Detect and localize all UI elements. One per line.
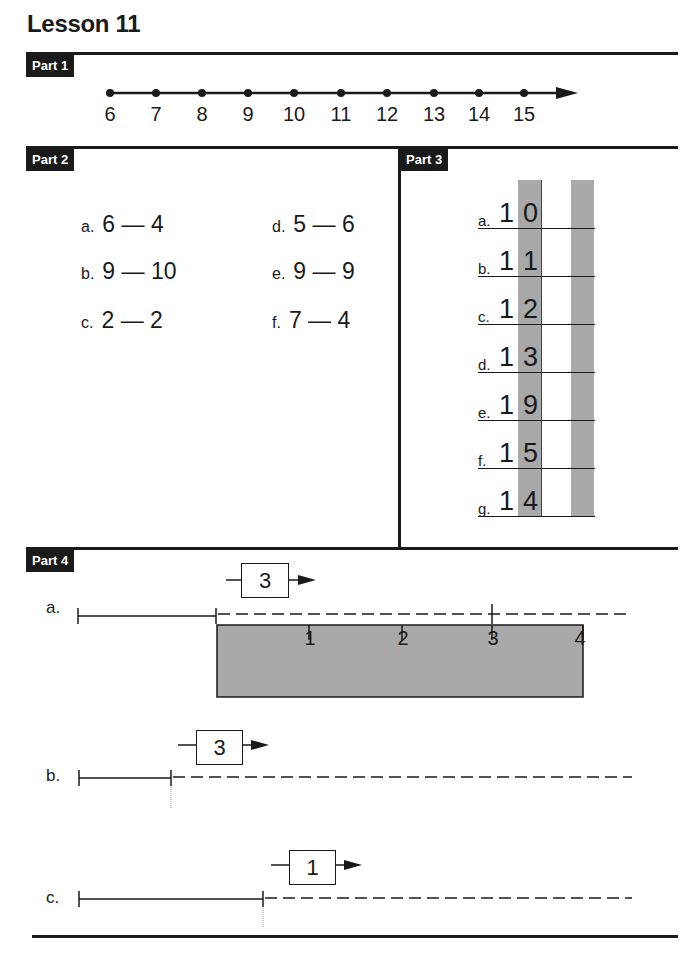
number-line-c — [0, 845, 694, 935]
comparison-item: a.6 — 4 — [81, 211, 164, 238]
part1-label: Part 1 — [26, 55, 74, 77]
jump-box: 1 — [289, 850, 336, 885]
jump-box: 3 — [196, 730, 243, 765]
number-label: 9 — [233, 103, 263, 126]
part3-label: Part 3 — [400, 149, 448, 171]
number-label: 14 — [464, 103, 494, 126]
ruler-label: 2 — [393, 627, 413, 650]
ruler-label: 4 — [570, 627, 590, 650]
comparison-item: b.9 — 10 — [81, 258, 177, 285]
divider-bottom — [32, 935, 678, 938]
comparison-item: e.9 — 9 — [272, 258, 355, 285]
comparison-item: d.5 — 6 — [272, 211, 355, 238]
comparison-item: c.2 — 2 — [81, 307, 163, 334]
column-divider — [541, 180, 542, 517]
number-label: 7 — [141, 103, 171, 126]
answer-column-shade — [571, 180, 594, 517]
number-label: 8 — [187, 103, 217, 126]
ruler-label: 1 — [300, 627, 320, 650]
divider-vertical — [398, 146, 401, 549]
number-label: 11 — [326, 103, 356, 126]
number-line-b — [0, 725, 694, 815]
number-label: 10 — [279, 103, 309, 126]
divider-top — [26, 52, 678, 55]
ruler-label: 3 — [483, 627, 503, 650]
comparison-item: f.7 — 4 — [272, 307, 350, 334]
jump-box: 3 — [241, 563, 289, 598]
divider-part1 — [26, 146, 678, 149]
number-label: 12 — [372, 103, 402, 126]
number-label: 15 — [509, 103, 539, 126]
number-label: 6 — [95, 103, 125, 126]
part2-label: Part 2 — [26, 149, 74, 171]
divider-part4 — [26, 547, 678, 550]
number-label: 13 — [419, 103, 449, 126]
page-title: Lesson 11 — [27, 10, 140, 38]
